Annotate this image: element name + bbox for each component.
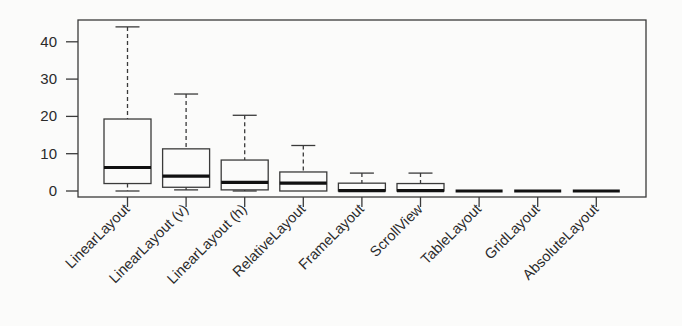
y-tick-label: 30 bbox=[40, 70, 57, 87]
boxes bbox=[104, 27, 620, 191]
y-tick-label: 0 bbox=[49, 182, 57, 199]
x-tick-label: TableLayout bbox=[418, 201, 485, 268]
box-linearlayout bbox=[104, 27, 151, 191]
y-axis: 010203040 bbox=[40, 33, 78, 199]
box-linearlayout-h bbox=[221, 115, 268, 191]
box-plot-chart: 010203040 LinearLayoutLinearLayout (v)Li… bbox=[0, 0, 682, 326]
iqr-box bbox=[221, 160, 268, 190]
y-tick-label: 20 bbox=[40, 107, 57, 124]
x-tick-label: GridLayout bbox=[481, 201, 542, 262]
box-linearlayout-v bbox=[163, 94, 210, 190]
y-tick-label: 40 bbox=[40, 33, 57, 50]
box-scrollview bbox=[397, 173, 444, 191]
x-axis: LinearLayoutLinearLayout (v)LinearLayout… bbox=[62, 197, 601, 287]
box-relativelayout bbox=[280, 145, 327, 191]
iqr-box bbox=[280, 172, 327, 191]
y-tick-label: 10 bbox=[40, 145, 57, 162]
x-tick-label: ScrollView bbox=[367, 200, 426, 259]
iqr-box bbox=[163, 149, 210, 187]
box-framelayout bbox=[338, 173, 385, 191]
iqr-box bbox=[104, 119, 151, 184]
